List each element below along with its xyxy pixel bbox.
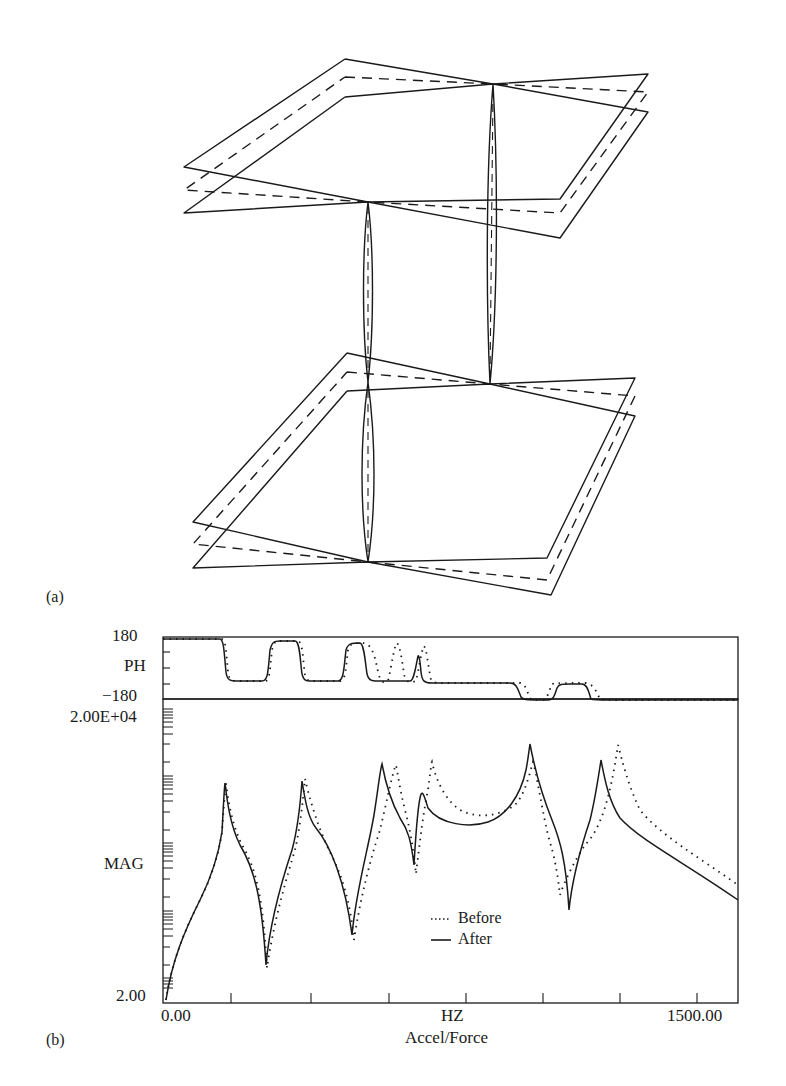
magnitude-label-bottom: 2.00: [116, 986, 146, 1006]
plot-footer-label: Accel/Force: [405, 1028, 488, 1048]
x-axis-ticks: [231, 993, 697, 1003]
magnitude-y-ticks: [163, 709, 173, 988]
phase-y-ticks: [163, 652, 170, 684]
magnitude-plot-frame: [163, 699, 738, 1003]
magnitude-label-top: 2.00E+04: [70, 707, 137, 727]
panel-b-label: (b): [46, 1031, 65, 1049]
phase-axis-label: PH: [124, 656, 146, 676]
x-label-min: 0.00: [161, 1006, 191, 1026]
phase-label-top: 180: [112, 626, 138, 646]
x-label-max: 1500.00: [667, 1006, 722, 1026]
phase-label-bottom: −180: [102, 686, 137, 706]
magnitude-axis-label: MAG: [104, 854, 144, 874]
magnitude-curve-after: [166, 744, 738, 1000]
phase-curve-after: [163, 639, 738, 700]
legend-after-label: After: [458, 930, 492, 948]
frf-plot: [0, 0, 786, 1086]
phase-plot-frame: [163, 637, 738, 699]
x-axis-unit-label: HZ: [441, 1006, 464, 1026]
legend-before-label: Before: [458, 909, 502, 927]
phase-curve-before: [163, 639, 738, 700]
